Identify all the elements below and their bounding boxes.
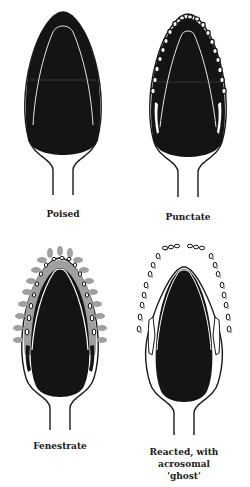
label-fenestrate: Fenestrate bbox=[14, 440, 106, 452]
punctate-diagram bbox=[150, 14, 227, 197]
label-punctate: Punctate bbox=[143, 211, 233, 223]
label-poised: Poised bbox=[18, 208, 108, 220]
reacted-diagram bbox=[137, 244, 232, 435]
diagram-canvas bbox=[0, 0, 250, 487]
fenestrate-diagram bbox=[13, 246, 107, 430]
label-reacted: Reacted, with acrosomal 'ghost' bbox=[134, 446, 234, 482]
poised-diagram bbox=[25, 12, 102, 195]
